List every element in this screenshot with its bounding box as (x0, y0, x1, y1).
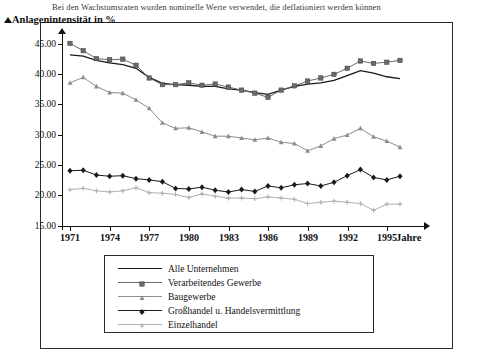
legend-label-1: Verarbeitendes Gewerbe (162, 278, 261, 288)
legend-square-icon (137, 279, 147, 289)
legend-key-0 (118, 263, 162, 275)
legend-key-2 (118, 291, 162, 303)
legend-key-1 (118, 277, 162, 289)
legend-label-3: Großhandel u. Handelsvermittlung (162, 306, 300, 316)
series-1 (68, 41, 402, 99)
chart-page: Bei den Wachstumsraten wurden nominelle … (0, 0, 490, 364)
legend-diamond-icon (137, 307, 147, 317)
series-4 (68, 185, 403, 212)
legend-item-4: Einzelhandel (118, 318, 368, 332)
series-3 (67, 167, 402, 195)
legend-key-4 (118, 319, 162, 331)
legend-label-4: Einzelhandel (162, 320, 218, 330)
legend-key-3 (118, 305, 162, 317)
legend-label-0: Alle Unternehmen (162, 264, 238, 274)
legend-item-2: Baugewerbe (118, 290, 368, 304)
legend-plus-icon (137, 321, 147, 331)
legend-label-2: Baugewerbe (162, 292, 215, 302)
series-2 (68, 75, 403, 153)
legend-item-0: Alle Unternehmen (118, 262, 368, 276)
legend-item-1: Verarbeitendes Gewerbe (118, 276, 368, 290)
chart-legend: Alle UnternehmenVerarbeitendes GewerbeBa… (118, 262, 368, 332)
legend-item-3: Großhandel u. Handelsvermittlung (118, 304, 368, 318)
legend-line-icon (118, 268, 162, 269)
legend-triangle-icon (137, 293, 147, 303)
